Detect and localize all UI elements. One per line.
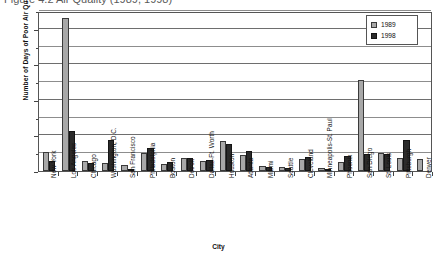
x-tick-label: New York xyxy=(50,151,57,178)
x-tick-mark xyxy=(58,172,59,176)
x-tick-mark xyxy=(255,172,256,176)
x-tick-label: Los Angeles xyxy=(70,143,77,178)
x-tick-mark xyxy=(77,172,78,176)
bar-group xyxy=(220,13,232,171)
x-tick-mark xyxy=(353,172,354,176)
y-tick-mark-150 xyxy=(34,65,38,66)
x-tick-label: Dallas-Ft. Worth xyxy=(208,131,215,178)
x-tick-label: Houston xyxy=(228,154,235,178)
y-tick-mark-200 xyxy=(34,30,38,31)
bar-group xyxy=(338,13,350,171)
bar-group xyxy=(417,13,429,171)
legend-item-1998: 1998 xyxy=(371,30,413,41)
x-tick-mark xyxy=(373,172,374,176)
bar-group xyxy=(161,13,173,171)
x-tick-label: Washington, D.C. xyxy=(110,127,117,178)
legend-swatch-1998 xyxy=(371,33,377,39)
x-tick-mark xyxy=(156,172,157,176)
x-tick-label: Atlanta xyxy=(247,158,254,178)
y-tick-mark-0 xyxy=(34,172,38,173)
x-tick-mark xyxy=(393,172,394,176)
y-tick-mark-75 xyxy=(36,119,38,120)
x-tick-label: Seattle xyxy=(287,158,294,178)
x-tick-label: Minneapolis-St. Paul xyxy=(326,118,333,178)
x-tick-label: Philadelphia xyxy=(149,143,156,178)
figure-container: Figure 4.2 Air Quality (1989, 1998) Numb… xyxy=(0,0,437,262)
x-tick-label: Denver xyxy=(425,157,432,178)
y-tick-mark-175 xyxy=(36,48,38,49)
x-tick-mark xyxy=(176,172,177,176)
x-tick-label: San Diego xyxy=(366,148,373,178)
y-tick-mark-100 xyxy=(34,101,38,102)
bar-group xyxy=(43,13,55,171)
caption-text: Figure 4.2 Air Quality (1989, 1998) xyxy=(4,0,172,5)
x-tick-mark xyxy=(432,172,433,176)
x-tick-label: Detroit xyxy=(188,159,195,178)
x-tick-mark xyxy=(334,172,335,176)
legend-label-1998: 1998 xyxy=(381,32,396,39)
bar-group xyxy=(279,13,291,171)
x-tick-label: Miami xyxy=(267,161,274,178)
x-tick-label: Pittsburgh xyxy=(405,149,412,178)
figure-caption-clipped: Figure 4.2 Air Quality (1989, 1998) xyxy=(0,0,437,9)
x-tick-mark xyxy=(235,172,236,176)
x-tick-mark xyxy=(294,172,295,176)
x-tick-mark xyxy=(97,172,98,176)
x-tick-label: San Francisco xyxy=(129,137,136,179)
bar-group xyxy=(181,13,193,171)
y-tick-mark-125 xyxy=(36,83,38,84)
y-tick-mark-225 xyxy=(36,12,38,13)
x-tick-mark xyxy=(137,172,138,176)
bar-group xyxy=(82,13,94,171)
x-tick-label: Cleveland xyxy=(307,149,314,178)
x-tick-mark xyxy=(215,172,216,176)
legend-label-1989: 1989 xyxy=(381,21,396,28)
bar-group xyxy=(299,13,311,171)
y-axis-title: Number of Days of Poor Air Quality xyxy=(22,0,29,124)
x-axis-title: City xyxy=(0,243,437,250)
legend-swatch-1989 xyxy=(371,22,377,28)
x-tick-label: Boston xyxy=(169,158,176,178)
x-tick-mark xyxy=(274,172,275,176)
y-tick-mark-25 xyxy=(36,154,38,155)
bar-1989 xyxy=(417,159,423,171)
x-tick-label: Chicago xyxy=(90,154,97,178)
bar-group xyxy=(240,13,252,171)
bar-group xyxy=(259,13,271,171)
x-tick-label: St. Louis xyxy=(385,153,392,178)
y-tick-mark-50 xyxy=(34,136,38,137)
chart-legend: 1989 1998 xyxy=(366,15,418,45)
gridline-225 xyxy=(39,10,431,11)
x-tick-mark xyxy=(412,172,413,176)
legend-item-1989: 1989 xyxy=(371,19,413,30)
x-tick-label: Phoenix xyxy=(346,155,353,178)
x-tick-mark xyxy=(196,172,197,176)
